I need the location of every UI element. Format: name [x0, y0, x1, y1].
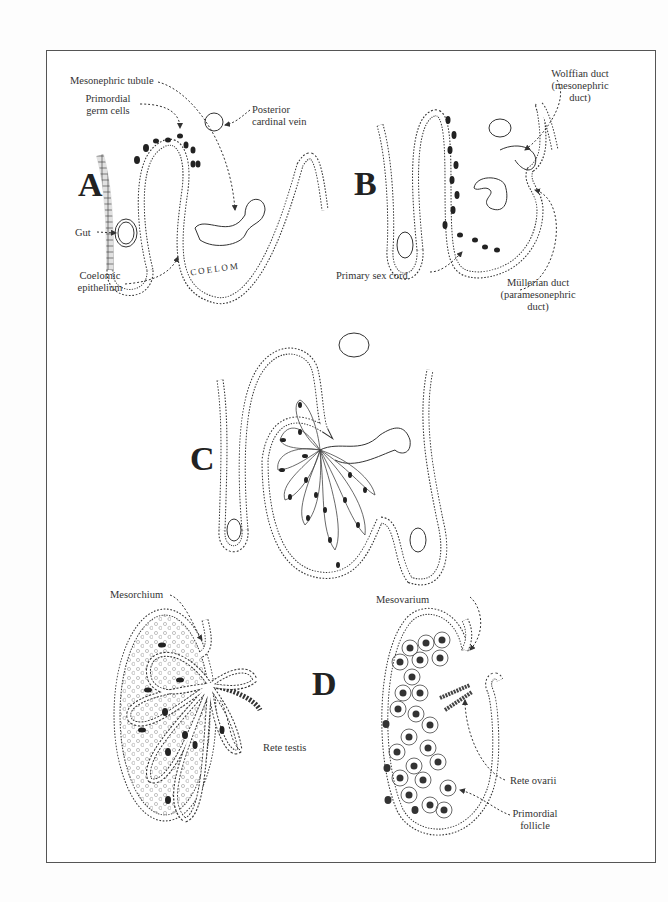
label-gut: Gut: [75, 227, 91, 239]
panel-label-c: C: [190, 440, 215, 478]
gonad-development-diagram: [0, 0, 668, 902]
label-primordial-germ-cells: Primordial germ cells: [78, 93, 138, 117]
panel-label-b: B: [354, 165, 377, 203]
label-rete-testis: Rete testis: [263, 742, 306, 754]
label-mesonephric-tubule: Mesonephric tubule: [70, 75, 154, 87]
label-primordial-follicle: Primordial follicle: [505, 808, 565, 832]
label-rete-ovarii: Rete ovarii: [510, 775, 556, 787]
panel-d-ovary-drawing: [383, 597, 511, 832]
label-primary-sex-cord: Primary sex cord: [336, 270, 408, 282]
panel-c-drawing: [220, 333, 444, 582]
label-coelomic-epithelium: Coelomic epithelium: [70, 270, 130, 294]
panel-d-testis-drawing: [117, 595, 260, 820]
panel-label-d: D: [312, 665, 337, 703]
label-wolffian-duct: Wolffian duct (mesonephric duct): [540, 68, 620, 104]
label-mesorchium: Mesorchium: [110, 589, 163, 601]
label-mullerian-duct: Müllerian duct (paramesonephric duct): [493, 277, 583, 313]
label-mesovarium: Mesovarium: [376, 594, 429, 606]
panel-b-drawing: [380, 80, 561, 290]
panel-label-a: A: [78, 166, 103, 204]
label-posterior-cardinal-vein: Posterior cardinal vein: [252, 104, 307, 128]
